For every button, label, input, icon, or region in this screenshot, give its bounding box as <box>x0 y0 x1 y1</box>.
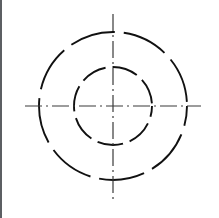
technical-drawing-canvas <box>0 0 219 218</box>
drawing-svg <box>0 0 219 218</box>
centerlines-group <box>25 14 201 203</box>
